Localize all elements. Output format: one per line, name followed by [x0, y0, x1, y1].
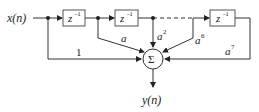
- coef-a6: a 6: [195, 32, 205, 46]
- svg-text:-1: -1: [223, 10, 229, 18]
- signal-path: [33, 18, 250, 87]
- junction-node: [151, 16, 155, 20]
- coef-a: a: [121, 32, 127, 44]
- junction-node: [46, 16, 50, 20]
- svg-text:z: z: [215, 12, 221, 24]
- summer: Σ: [143, 49, 163, 69]
- coef-1: 1: [76, 46, 82, 58]
- svg-text:7: 7: [231, 43, 235, 51]
- input-label: x(n): [6, 11, 26, 25]
- delay-block-1: z -1: [63, 10, 85, 26]
- delay-block-2: z -1: [115, 10, 138, 26]
- svg-text:2: 2: [163, 28, 167, 36]
- svg-text:6: 6: [201, 32, 205, 40]
- fir-filter-diagram: x(n) z -1 z -1 z -1: [0, 0, 259, 112]
- coef-a7: a 7: [225, 43, 235, 57]
- junction-node: [96, 16, 100, 20]
- svg-text:z: z: [119, 12, 125, 24]
- svg-text:z: z: [67, 12, 73, 24]
- svg-text:-1: -1: [127, 10, 133, 18]
- sigma-symbol: Σ: [148, 53, 154, 65]
- delay-block-3: z -1: [210, 10, 235, 26]
- svg-text:-1: -1: [75, 10, 81, 18]
- coef-a2: a 2: [157, 28, 167, 42]
- output-label: y(n): [141, 93, 161, 107]
